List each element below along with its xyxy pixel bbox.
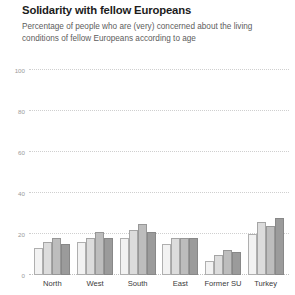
bar <box>205 261 214 275</box>
x-axis-label: Turkey <box>244 276 287 292</box>
bar-group <box>244 70 287 275</box>
bar <box>104 238 113 275</box>
bar <box>138 224 147 275</box>
bar <box>147 232 156 275</box>
bar <box>52 238 61 275</box>
y-axis-tick-20: 20 <box>18 231 25 238</box>
bar <box>86 238 95 275</box>
y-axis-tick-100: 100 <box>15 67 25 74</box>
bar-group <box>74 70 117 275</box>
plot-area: 020406080100 <box>29 70 289 275</box>
bar <box>257 222 266 275</box>
bar <box>275 218 284 275</box>
y-axis-tick-40: 40 <box>18 190 25 197</box>
x-axis-label: West <box>74 276 117 292</box>
bar <box>248 234 257 275</box>
bar <box>189 238 198 275</box>
bar <box>162 244 171 275</box>
bar <box>266 226 275 275</box>
bars-layer <box>29 70 289 275</box>
x-axis-label: East <box>159 276 202 292</box>
x-axis-label: South <box>116 276 159 292</box>
chart-header: Solidarity with fellow Europeans Percent… <box>22 4 287 44</box>
chart-card: Solidarity with fellow Europeans Percent… <box>0 0 295 295</box>
bar-group <box>159 70 202 275</box>
bar-group <box>116 70 159 275</box>
x-axis-label: North <box>31 276 74 292</box>
bar <box>214 255 223 276</box>
y-axis-tick-0: 0 <box>22 272 25 279</box>
bar <box>171 238 180 275</box>
bar <box>77 242 86 275</box>
chart-subtitle: Percentage of people who are (very) conc… <box>22 21 274 44</box>
x-axis-label: Former SU <box>202 276 245 292</box>
bar <box>61 244 70 275</box>
bar <box>43 242 52 275</box>
bar <box>95 232 104 275</box>
bar-group <box>202 70 245 275</box>
bar <box>180 238 189 275</box>
bar <box>232 252 241 275</box>
y-axis-tick-60: 60 <box>18 149 25 156</box>
chart-title: Solidarity with fellow Europeans <box>22 4 287 17</box>
bar <box>129 230 138 275</box>
x-axis-labels: NorthWestSouthEastFormer SUTurkey <box>29 276 289 292</box>
bar <box>34 248 43 275</box>
bar <box>120 238 129 275</box>
bar-group <box>31 70 74 275</box>
bar <box>223 250 232 275</box>
y-axis-tick-80: 80 <box>18 108 25 115</box>
